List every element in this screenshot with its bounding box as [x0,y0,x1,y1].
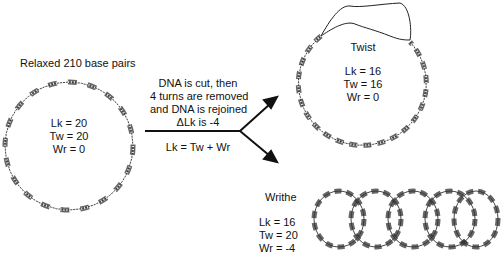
process-line-2: 4 turns are removed [150,90,246,103]
relaxed-title: Relaxed 210 base pairs [20,57,136,70]
writhe-wr: Wr = -4 [259,242,295,255]
twist-wr: Wr = 0 [338,91,388,104]
writhe-tw: Tw = 20 [259,229,298,242]
relaxed-wr: Wr = 0 [44,143,94,156]
writhe-dna-loops [314,191,498,247]
relaxed-tw: Tw = 20 [44,130,94,143]
twist-tw: Tw = 16 [338,78,388,91]
process-line-3: and DNA is rejoined [150,103,246,116]
writhe-title: Writhe [265,191,297,204]
delta-lk-label: ΔLk is -4 [150,116,246,129]
writhe-lk: Lk = 16 [259,216,295,229]
twist-lk: Lk = 16 [338,65,388,78]
process-line-1: DNA is cut, then [150,77,246,90]
equation-label: Lk = Tw + Wr [150,141,246,154]
twist-title: Twist [338,41,388,54]
relaxed-lk: Lk = 20 [44,117,94,130]
